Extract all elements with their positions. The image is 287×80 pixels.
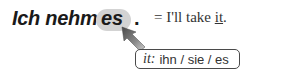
pronoun-note-box: it: ihn / sie / es [135, 49, 240, 69]
english-translation: = I'll take it. [154, 9, 227, 26]
translation-end: . [223, 9, 227, 25]
translation-underlined-word: it [215, 9, 223, 25]
translation-text: = I'll take [154, 9, 215, 25]
note-forms: ihn / sie / es [159, 52, 228, 67]
german-sentence-prefix: Ich nehme [12, 7, 108, 30]
note-label: it: [143, 51, 155, 67]
